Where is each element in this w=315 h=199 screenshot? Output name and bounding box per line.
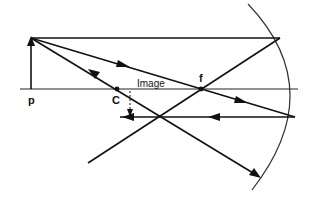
concave-mirror (248, 4, 290, 190)
arrow-icon (116, 60, 130, 67)
focal-point (199, 87, 204, 92)
arrow-icon (234, 96, 248, 103)
ray-center (31, 38, 258, 176)
arrow-icon (208, 113, 220, 121)
arrow-icon (249, 168, 261, 178)
label-image: Image (137, 78, 165, 89)
label-center: C (112, 94, 120, 106)
center-point (115, 87, 120, 92)
label-object: p (28, 94, 35, 106)
arrow-icon (122, 113, 134, 121)
ray-diagram: p C f Image (0, 0, 315, 199)
label-focal: f (199, 72, 203, 84)
